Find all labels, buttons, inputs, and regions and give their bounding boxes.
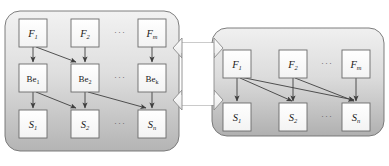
left-model-panel[interactable]: F1 F2 ··· Fm Be1 B [5, 11, 179, 151]
left-behaviour-row: Be1 Be2 ··· Bek [19, 64, 166, 92]
figure-canvas: · · · · · · · · · · · · · · · · · · · · … [0, 0, 389, 166]
left-ellipsis-state-row: ··· [114, 118, 126, 128]
conn-shaft-fill [182, 43, 214, 105]
right-ellipsis-factor-row: ··· [321, 58, 333, 68]
right-model-panel[interactable]: F1 F2 ··· Fm S1 S2 [212, 28, 384, 136]
left-ellipsis-factor-row: ··· [114, 27, 126, 37]
left-state-row: S1 S2 ··· Sn [19, 110, 166, 138]
right-factor-row: F1 F2 ··· Fm [223, 50, 370, 78]
left-factor-row: F1 F2 ··· Fm [19, 19, 166, 47]
diagram-svg: F1 F2 ··· Fm Be1 B [0, 0, 389, 166]
left-ellipsis-behaviour-row: ··· [114, 72, 126, 82]
right-state-row: S1 S2 ··· Sn [223, 103, 370, 131]
right-ellipsis-state-row: ··· [321, 111, 333, 121]
